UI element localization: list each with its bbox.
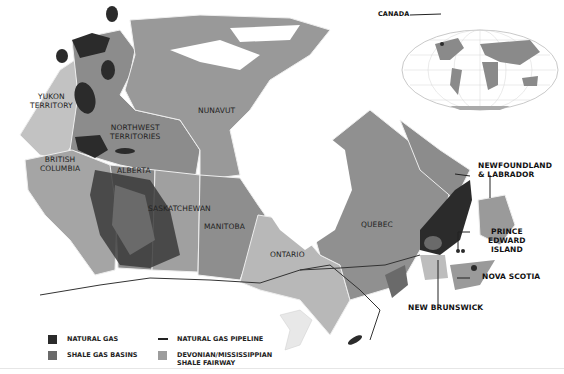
label-bc: BRITISH COLUMBIA	[40, 155, 80, 173]
natural-gas-swatch-icon	[48, 335, 57, 344]
legend-label: NATURAL GAS PIPELINE	[177, 335, 263, 343]
legend-label-line2: SHALE FAIRWAY	[177, 359, 272, 367]
map-legend: NATURAL GAS SHALE GAS BASINS NATURAL GAS…	[48, 335, 308, 371]
label-manitoba: MANITOBA	[204, 222, 245, 231]
region-new-brunswick	[420, 255, 448, 280]
label-nl-line2: & LABRADOR	[478, 170, 552, 179]
label-pei: PRINCE EDWARD ISLAND	[488, 227, 526, 254]
legend-item-shale-fairway: DEVONIAN/MISSISSIPPIAN SHALE FAIRWAY	[158, 351, 272, 367]
canada-map	[0, 0, 564, 374]
label-newfoundland-labrador: NEWFOUNDLAND & LABRADOR	[478, 161, 552, 179]
label-saskatchewan: SASKATCHEWAN	[148, 204, 211, 213]
shale-gas-swatch-icon	[48, 351, 57, 360]
legend-item-pipeline: NATURAL GAS PIPELINE	[158, 335, 263, 343]
label-bc-line2: COLUMBIA	[40, 164, 80, 173]
label-nwt-line2: TERRITORIES	[110, 132, 160, 141]
legend-item-shale-gas-basins: SHALE GAS BASINS	[48, 351, 138, 360]
label-pei-line2: EDWARD	[488, 236, 526, 245]
label-yukon-line1: YUKON	[30, 92, 73, 101]
label-bc-line1: BRITISH	[40, 155, 80, 164]
label-nova-scotia: NOVA SCOTIA	[482, 272, 540, 281]
divider	[0, 368, 564, 369]
region-yukon	[20, 60, 78, 160]
shale-fairway-swatch-icon	[158, 351, 167, 360]
label-new-brunswick: NEW BRUNSWICK	[408, 303, 483, 312]
label-nunavut: NUNAVUT	[198, 106, 235, 115]
legend-label: SHALE GAS BASINS	[67, 351, 138, 359]
legend-label: NATURAL GAS	[67, 335, 118, 343]
label-nwt-line1: NORTHWEST	[110, 123, 160, 132]
label-alberta: ALBERTA	[117, 166, 151, 175]
legend-item-natural-gas: NATURAL GAS	[48, 335, 118, 344]
label-ontario: ONTARIO	[270, 250, 305, 259]
world-inset	[402, 30, 558, 110]
label-nl-line1: NEWFOUNDLAND	[478, 161, 552, 170]
pipeline-line-icon	[158, 338, 168, 340]
label-pei-line3: ISLAND	[488, 245, 526, 254]
legend-label-line1: DEVONIAN/MISSISSIPPIAN	[177, 351, 272, 359]
label-pei-line1: PRINCE	[488, 227, 526, 236]
label-nwt: NORTHWEST TERRITORIES	[110, 123, 160, 141]
label-yukon: YUKON TERRITORY	[30, 92, 73, 110]
legend-label: DEVONIAN/MISSISSIPPIAN SHALE FAIRWAY	[177, 351, 272, 367]
label-yukon-line2: TERRITORY	[30, 101, 73, 110]
label-inset-canada: CANADA	[378, 10, 409, 19]
label-quebec: QUEBEC	[361, 220, 393, 229]
